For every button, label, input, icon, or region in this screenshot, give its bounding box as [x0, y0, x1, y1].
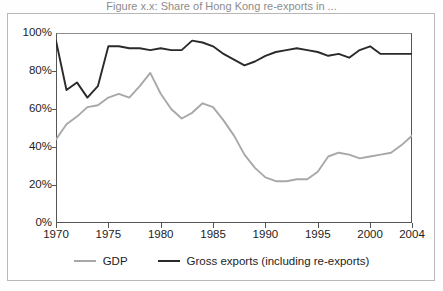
y-tick-label: 0% [6, 217, 52, 228]
x-axis-labels: 19701975198019851990199520002004 [0, 228, 443, 244]
plot-area [56, 33, 412, 223]
legend-label-gdp: GDP [103, 255, 128, 267]
x-tick-label: 2004 [399, 228, 425, 241]
legend-item-gdp: GDP [74, 255, 128, 267]
chart-svg [56, 33, 412, 223]
line-swatch-gdp-icon [74, 260, 96, 262]
x-tick-label: 1970 [43, 228, 69, 241]
series-line-gross-exports [56, 41, 412, 98]
x-tick-label: 1990 [253, 228, 279, 241]
y-tick-label: 80% [6, 65, 52, 76]
y-tick-mark [52, 71, 56, 72]
y-tick-mark [52, 185, 56, 186]
line-swatch-exports-icon [158, 260, 180, 262]
x-tick-mark [265, 223, 266, 228]
x-tick-mark [412, 223, 413, 228]
y-tick-label: 100% [6, 27, 52, 38]
x-tick-mark [213, 223, 214, 228]
chart-legend: GDP Gross exports (including re-exports) [0, 255, 443, 267]
y-tick-mark [52, 109, 56, 110]
y-tick-label: 60% [6, 103, 52, 114]
y-tick-label: 20% [6, 179, 52, 190]
figure-container: Figure x.x: Share of Hong Kong re-export… [0, 0, 443, 291]
series-line-gdp [56, 73, 412, 181]
x-tick-label: 1985 [200, 228, 226, 241]
y-axis-labels: 0%20%40%60%80%100% [2, 33, 52, 223]
x-tick-label: 1995 [305, 228, 331, 241]
x-tick-mark [370, 223, 371, 228]
y-tick-mark [52, 147, 56, 148]
x-tick-mark [318, 223, 319, 228]
x-tick-label: 2000 [357, 228, 383, 241]
x-tick-mark [108, 223, 109, 228]
y-tick-label: 40% [6, 141, 52, 152]
x-tick-label: 1975 [96, 228, 122, 241]
figure-title-partial: Figure x.x: Share of Hong Kong re-export… [0, 0, 443, 12]
legend-item-gross-exports: Gross exports (including re-exports) [158, 255, 370, 267]
x-tick-mark [161, 223, 162, 228]
x-tick-mark [56, 223, 57, 228]
legend-label-gross-exports: Gross exports (including re-exports) [187, 255, 370, 267]
x-tick-label: 1980 [148, 228, 174, 241]
